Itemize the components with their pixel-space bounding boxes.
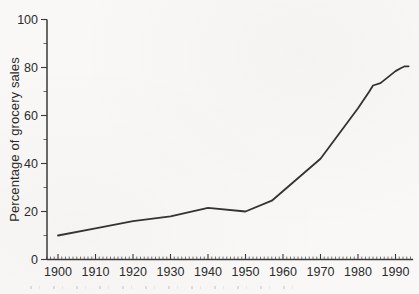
y-axis-title: Percentage of grocery sales <box>7 50 22 230</box>
y-tick-label: 80 <box>24 61 38 75</box>
y-tick-label: 0 <box>31 253 38 267</box>
x-tick-label: 1970 <box>307 265 335 279</box>
cropped-caption-remnant <box>30 286 298 289</box>
x-tick-label: 1980 <box>344 265 372 279</box>
y-tick-label: 60 <box>24 109 38 123</box>
x-tick-label: 1960 <box>269 265 297 279</box>
y-tick-label: 100 <box>17 13 38 27</box>
x-tick-label: 1920 <box>119 265 147 279</box>
y-tick-label: 40 <box>24 157 38 171</box>
x-tick-label: 1940 <box>194 265 222 279</box>
y-tick-label: 20 <box>24 205 38 219</box>
x-tick-label: 1990 <box>382 265 410 279</box>
scanned-chart-page: 1900191019201930194019501960197019801990… <box>0 0 419 294</box>
x-tick-label: 1910 <box>82 265 110 279</box>
x-tick-label: 1900 <box>44 265 72 279</box>
x-tick-label: 1950 <box>232 265 260 279</box>
series-percentage-of-grocery-sales <box>58 66 409 235</box>
x-tick-label: 1930 <box>157 265 185 279</box>
line-chart: 1900191019201930194019501960197019801990… <box>0 0 419 294</box>
